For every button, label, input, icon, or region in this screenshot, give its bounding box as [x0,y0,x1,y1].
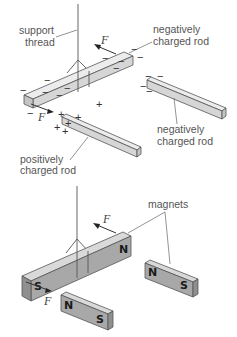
electrostatics-magnetism-diagram: support thread negatively charged rod − … [0,0,237,337]
bottom-panel-magnets: N S F F N S N S [22,186,198,330]
svg-text:−: − [102,52,108,64]
magnets-leader-right [165,212,170,264]
right-magnet: N S [145,260,198,297]
force-label-top: F [100,33,109,47]
suspended-magnet: N S [22,232,131,301]
front-magnet-south-pole: S [96,313,104,326]
svg-text:−: − [157,70,163,82]
positive-rod-leader [70,137,88,160]
right-negative-rod [147,77,226,119]
right-rod-label-line2: charged rod [157,135,213,147]
magnet-force-label-bottom: F [43,294,52,308]
svg-text:+: + [58,108,64,120]
right-rod-leader [174,98,177,124]
force-arrow-top: F [94,33,116,54]
top-panel-charged-rods: support thread negatively charged rod − … [19,4,226,176]
right-magnet-north-pole: N [148,266,157,279]
front-magnet-north-pole: N [64,299,73,312]
right-magnet-south-pole: S [180,279,188,292]
magnets-label: magnets [148,198,188,210]
svg-text:−: − [44,74,50,86]
svg-text:+: + [62,125,68,137]
svg-text:−: − [56,89,62,101]
svg-text:−: − [20,84,26,96]
svg-text:+: + [54,121,60,133]
positive-charge-middle: + [96,98,102,110]
support-thread-leader [56,30,77,37]
support-thread-label-line2: thread [25,36,55,48]
support-thread-label-line1: support [19,24,54,36]
positive-rod [62,114,141,157]
svg-text:−: − [64,82,70,94]
right-rod-label-line1: negatively [157,123,205,135]
front-magnet: N S [61,292,113,330]
suspended-rod-label-line1: negatively [153,23,201,35]
svg-text:−: − [118,55,124,67]
svg-text:−: − [137,51,143,63]
force-label-bottom: F [37,110,46,124]
suspended-magnet-north-pole: N [119,243,128,256]
magnets-leader-suspended [128,212,165,233]
svg-text:−: − [42,86,48,98]
magnet-force-label-top: F [102,212,111,226]
suspended-rod-label-line2: charged rod [153,35,209,47]
svg-text:−: − [27,107,33,119]
svg-text:+: + [75,111,81,123]
positive-charges-positive-rod: + + + + + [54,108,81,137]
magnet-force-arrow-top: F [93,212,116,233]
svg-text:−: − [146,85,152,97]
positive-rod-label-line2: charged rod [20,164,76,176]
